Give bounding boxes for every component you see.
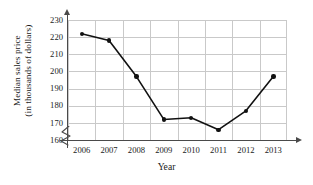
y-tick-label-190: 190 [37,84,63,93]
axis-break-icon [55,126,81,146]
x-tick-label-2013: 2013 [256,146,290,155]
y-tick-label-180: 180 [37,101,63,110]
data-point-2008 [134,74,138,78]
x-axis-line [60,140,297,141]
plot-area [68,20,287,140]
data-point-2007 [107,38,111,42]
data-point-2013 [271,74,275,78]
data-point-2006 [80,32,84,36]
line-chart-figure: Median sales price (in thousands of doll… [0,0,313,185]
y-tick-label-220: 220 [37,33,63,42]
y-axis-arrow-icon [64,9,70,15]
data-series-line [68,20,287,140]
y-tick-label-200: 200 [37,67,63,76]
x-axis-arrow-icon [296,137,302,143]
x-axis-title-text: Year [158,161,176,172]
series-polyline [82,34,274,130]
data-point-2011 [216,128,220,132]
x-axis-title: Year [0,161,313,172]
y-tick-label-230: 230 [37,16,63,25]
data-point-2009 [162,117,166,121]
y-tick-label-210: 210 [37,50,63,59]
